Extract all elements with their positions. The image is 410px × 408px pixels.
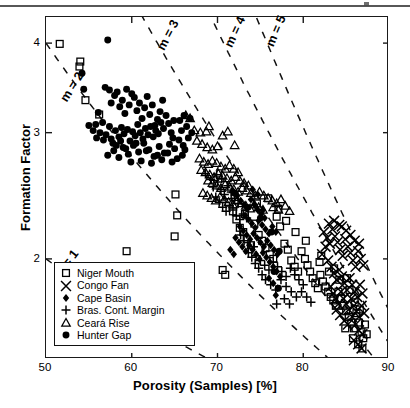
legend-marker [63, 332, 70, 339]
legend-item-label: Hunter Gap [74, 329, 131, 341]
legend-item-label: Bras. Cont. Margin [74, 304, 165, 316]
x-tick-label: 90 [382, 361, 395, 373]
legend-marker [63, 270, 70, 277]
legend-marker [62, 318, 71, 326]
legend-item[interactable]: Niger Mouth [59, 267, 189, 279]
square-open-icon [59, 267, 74, 279]
x-tick-label: 60 [124, 361, 137, 373]
y-axis-title: Formation Factor [18, 108, 33, 248]
scan-artifact-line [0, 5, 410, 7]
x-tick-label: 80 [296, 361, 309, 373]
figure-root: m = 1m = 2m = 3m = 4m = 5 5060708090 234… [0, 0, 410, 408]
legend-marker [62, 306, 71, 315]
legend-item[interactable]: Congo Fan [59, 279, 189, 291]
scan-artifact-dot [364, 2, 369, 6]
circle-filled-icon [59, 329, 74, 341]
y-tick-label: 2 [20, 252, 40, 264]
legend-item-label: Niger Mouth [74, 267, 134, 279]
legend-marker [61, 281, 71, 291]
y-tick-label: 4 [20, 36, 40, 48]
triangle-open-icon [59, 317, 74, 329]
legend-item[interactable]: Ceará Rise [59, 317, 189, 329]
x-tick-label: 70 [210, 361, 223, 373]
legend-item[interactable]: Hunter Gap [59, 329, 189, 341]
legend-item-label: Cape Basin [74, 292, 131, 304]
x-axis-title: Porosity (Samples) [%] [0, 378, 410, 393]
legend-marker [63, 294, 69, 302]
x-tick-label: 50 [39, 361, 52, 373]
legend-item-label: Ceará Rise [74, 317, 130, 329]
legend-item[interactable]: Cape Basin [59, 292, 189, 304]
legend-box: Niger MouthCongo FanCape BasinBras. Cont… [54, 262, 195, 346]
legend-item-label: Congo Fan [74, 279, 129, 291]
legend-item[interactable]: Bras. Cont. Margin [59, 304, 189, 316]
diamond-filled-icon [59, 292, 74, 304]
x-icon [59, 280, 74, 292]
plus-icon [59, 304, 74, 316]
